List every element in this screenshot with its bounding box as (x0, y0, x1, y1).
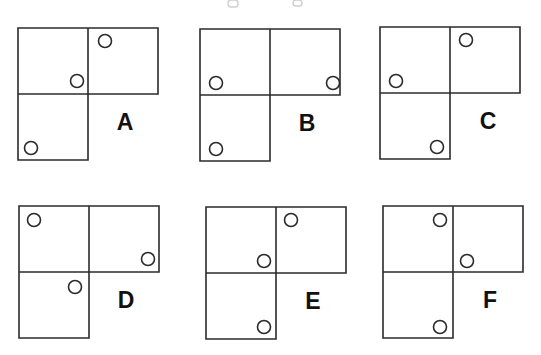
figure-b: B (200, 29, 340, 161)
circle-marker (69, 281, 82, 294)
figure-a: A (18, 28, 158, 160)
figure-label-d: D (118, 287, 135, 313)
figure-sheet: ABCDEF (0, 0, 541, 355)
figure-e: E (206, 207, 346, 339)
circle-marker (327, 77, 340, 90)
circle-marker (210, 77, 223, 90)
figure-label-b: B (299, 110, 316, 136)
circle-marker (285, 214, 298, 227)
circle-marker (28, 214, 41, 227)
scan-artifact (228, 0, 238, 7)
figure-c: C (380, 27, 520, 159)
circle-marker (431, 141, 444, 154)
circle-marker (434, 214, 447, 227)
figure-f: F (383, 206, 523, 338)
figure-label-f: F (483, 287, 497, 313)
circle-marker (460, 34, 473, 47)
circle-marker (142, 253, 155, 266)
circle-marker (390, 75, 403, 88)
figure-label-a: A (117, 109, 134, 135)
figures-group: ABCDEF (18, 27, 523, 339)
figure-label-e: E (305, 288, 320, 314)
circle-marker (258, 321, 271, 334)
scan-artifacts (228, 0, 302, 7)
circle-marker (99, 35, 112, 48)
figures-canvas: ABCDEF (0, 0, 541, 355)
circle-marker (210, 143, 223, 156)
scan-artifact (293, 0, 302, 6)
circle-marker (461, 255, 474, 268)
circle-marker (434, 321, 447, 334)
circle-marker (25, 142, 38, 155)
circle-marker (258, 255, 271, 268)
figure-label-c: C (480, 108, 497, 134)
circle-marker (71, 75, 84, 88)
figure-d: D (19, 206, 159, 338)
